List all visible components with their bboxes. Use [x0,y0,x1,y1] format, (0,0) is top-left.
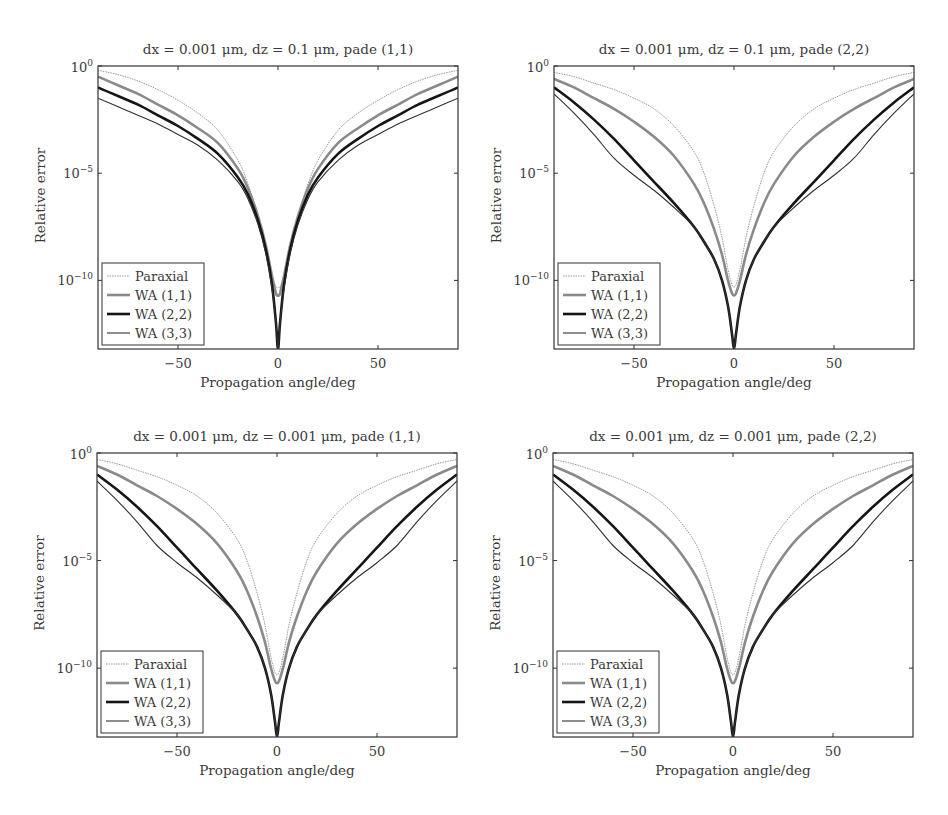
y-tick-label: 10−5 [63,164,93,181]
y-axis-label: Relative error [488,147,504,243]
subplot-top-right: dx = 0.001 μm, dz = 0.1 μm, pade (2,2)−5… [479,30,924,409]
legend-label: WA (3,3) [590,714,647,729]
y-axis-label: Relative error [487,535,503,631]
subplot-title: dx = 0.001 μm, dz = 0.1 μm, pade (1,1) [143,41,413,57]
subplot-bottom-right: dx = 0.001 μm, dz = 0.001 μm, pade (2,2)… [478,417,923,797]
legend-label: Paraxial [591,269,644,284]
legend-label: Paraxial [590,657,643,672]
y-tick-label: 100 [71,58,94,75]
x-tick-label: 0 [274,356,282,371]
y-tick-label: 10−10 [56,659,92,676]
x-axis-label: Propagation angle/deg [656,374,812,390]
x-axis-label: Propagation angle/deg [199,762,355,778]
x-tick-label: −50 [620,356,647,371]
legend-label: WA (3,3) [134,714,191,729]
legend: ParaxialWA (1,1)WA (2,2)WA (3,3) [102,263,204,345]
legend-label: WA (2,2) [134,695,191,710]
x-tick-label: 50 [826,356,843,371]
y-tick-label: 10−5 [518,552,548,569]
y-tick-label: 10−10 [57,271,93,288]
x-tick-label: −50 [163,744,190,759]
x-tick-label: 0 [729,744,737,759]
legend: ParaxialWA (1,1)WA (2,2)WA (3,3) [557,651,659,733]
y-tick-label: 10−10 [513,271,549,288]
legend-label: Paraxial [135,269,188,284]
legend-label: WA (2,2) [590,695,647,710]
x-tick-label: −50 [164,356,191,371]
legend-label: WA (2,2) [135,307,192,322]
x-tick-label: 0 [273,744,281,759]
series-line-paraxial [98,70,458,287]
legend-label: WA (2,2) [591,307,648,322]
x-tick-label: −50 [619,744,646,759]
subplot-title: dx = 0.001 μm, dz = 0.001 μm, pade (1,1) [133,428,421,444]
x-axis-label: Propagation angle/deg [655,762,811,778]
x-tick-label: 50 [370,356,387,371]
y-tick-label: 10−5 [62,552,92,569]
legend-label: WA (1,1) [590,676,647,691]
subplot-bottom-left: dx = 0.001 μm, dz = 0.001 μm, pade (1,1)… [22,417,467,797]
legend-label: WA (1,1) [135,288,192,303]
x-tick-label: 50 [825,744,842,759]
subplot-top-left: dx = 0.001 μm, dz = 0.1 μm, pade (1,1)−5… [23,30,468,409]
legend-label: WA (3,3) [591,326,648,341]
y-tick-label: 10−5 [519,164,549,181]
y-tick-label: 100 [70,445,93,462]
subplot-title: dx = 0.001 μm, dz = 0.001 μm, pade (2,2) [589,428,877,444]
x-tick-label: 0 [730,356,738,371]
legend-label: WA (1,1) [134,676,191,691]
y-tick-label: 100 [527,58,550,75]
y-axis-label: Relative error [31,535,47,631]
legend: ParaxialWA (1,1)WA (2,2)WA (3,3) [101,651,203,733]
y-tick-label: 10−10 [512,659,548,676]
subplot-title: dx = 0.001 μm, dz = 0.1 μm, pade (2,2) [599,41,869,57]
y-axis-label: Relative error [32,147,48,243]
y-tick-label: 100 [526,445,549,462]
x-axis-label: Propagation angle/deg [200,374,356,390]
legend-label: WA (1,1) [591,288,648,303]
x-tick-label: 50 [369,744,386,759]
legend-label: WA (3,3) [135,326,192,341]
legend-label: Paraxial [134,657,187,672]
legend: ParaxialWA (1,1)WA (2,2)WA (3,3) [558,263,660,345]
